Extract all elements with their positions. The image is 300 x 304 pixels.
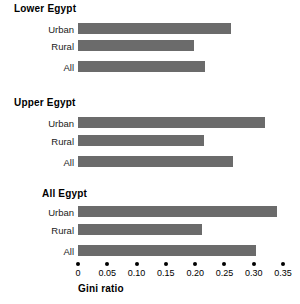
x-axis-tick-dot <box>193 262 197 266</box>
x-axis-tick-dot <box>281 262 285 266</box>
bar-allegypt-all <box>78 245 256 256</box>
category-label-upper-urban: Urban <box>14 118 74 129</box>
category-label-allegypt-rural: Rural <box>14 225 74 236</box>
category-label-lower-all: All <box>14 62 74 73</box>
bar-lower-rural <box>78 40 194 51</box>
bar-upper-rural <box>78 135 204 146</box>
x-axis-title: Gini ratio <box>78 283 124 294</box>
x-axis-tick-dot <box>105 262 109 266</box>
bar-allegypt-urban <box>78 206 277 217</box>
bar-upper-all <box>78 156 233 167</box>
x-axis-tick-dot <box>222 262 226 266</box>
x-axis-tick-label: 0.10 <box>128 268 146 278</box>
category-label-lower-rural: Rural <box>14 41 74 52</box>
x-axis-tick-dot <box>252 262 256 266</box>
x-axis-tick-dot <box>135 262 139 266</box>
category-label-lower-urban: Urban <box>14 24 74 35</box>
bar-lower-urban <box>78 23 231 34</box>
bar-lower-all <box>78 61 205 72</box>
group-title-all-egypt: All Egypt <box>42 188 87 199</box>
x-axis-tick-label: 0.25 <box>216 268 234 278</box>
x-axis-tick-dot <box>164 262 168 266</box>
x-axis-tick-label: 0.20 <box>186 268 204 278</box>
x-axis-tick-label: 0.35 <box>274 268 292 278</box>
x-axis-tick-label: 0.30 <box>245 268 263 278</box>
x-axis-tick-label: 0.15 <box>157 268 175 278</box>
x-axis-tick-label: 0 <box>75 268 80 278</box>
bar-upper-urban <box>78 117 265 128</box>
bar-allegypt-rural <box>78 224 202 235</box>
category-label-upper-rural: Rural <box>14 136 74 147</box>
gini-ratio-bar-chart: Lower Egypt Urban Rural All Upper Egypt … <box>0 0 300 304</box>
category-label-allegypt-urban: Urban <box>14 207 74 218</box>
x-axis-tick-label: 0.05 <box>99 268 117 278</box>
group-title-upper-egypt: Upper Egypt <box>14 97 76 108</box>
category-label-allegypt-all: All <box>14 246 74 257</box>
x-axis-tick-dot <box>76 262 80 266</box>
group-title-lower-egypt: Lower Egypt <box>14 3 76 14</box>
category-label-upper-all: All <box>14 157 74 168</box>
